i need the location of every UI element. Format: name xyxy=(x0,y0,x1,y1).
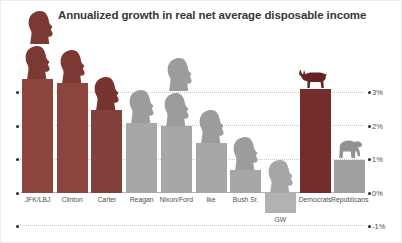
x-label-carter: Carter xyxy=(97,196,116,203)
y-tick-label-3: 3% xyxy=(372,88,383,97)
tick-dot xyxy=(16,225,19,228)
disposable-income-chart: Annualized growth in real net average di… xyxy=(0,0,402,243)
tick-dot xyxy=(16,91,19,94)
y-tick-label-1: 1% xyxy=(372,155,383,164)
tick-dot xyxy=(368,91,371,94)
bar-ike xyxy=(196,143,227,193)
x-label-gw: GW xyxy=(275,216,287,223)
bar-carter xyxy=(91,110,122,194)
bar-bush-sr xyxy=(230,170,261,193)
tick-dot xyxy=(368,192,371,195)
president-head-silhouette-reagan xyxy=(126,89,157,124)
y-tick-label-0: 0% xyxy=(372,189,383,198)
y-tick-label-2: 2% xyxy=(372,122,383,131)
x-label-republicans: Republicans xyxy=(331,196,368,203)
bar-clinton xyxy=(57,83,88,193)
president-head-silhouette-nixon-ford xyxy=(164,57,195,92)
y-tick-label-1: -1% xyxy=(372,222,385,231)
bar-republicans xyxy=(334,160,365,193)
x-label-jfk-lbj: JFK/LBJ xyxy=(25,196,51,203)
tick-dot xyxy=(368,125,371,128)
x-label-nixon-ford: Nixon/Ford xyxy=(160,196,193,203)
bar-reagan xyxy=(126,123,157,193)
tick-dot xyxy=(368,225,371,228)
bar-democrats xyxy=(300,89,331,193)
x-label-reagan: Reagan xyxy=(130,196,154,203)
x-label-clinton: Clinton xyxy=(62,196,83,203)
tick-dot xyxy=(16,158,19,161)
president-head-silhouette-clinton xyxy=(57,49,88,84)
x-label-bush-sr: Bush Sr. xyxy=(233,196,259,203)
x-label-ike: Ike xyxy=(206,196,215,203)
donkey-icon xyxy=(298,68,328,90)
president-head-silhouette-carter xyxy=(91,76,122,111)
tick-dot xyxy=(368,158,371,161)
bar-jfk-lbj xyxy=(22,79,53,193)
president-head-silhouette-jfk-lbj xyxy=(22,45,53,80)
elephant-icon xyxy=(335,139,364,160)
tick-dot xyxy=(16,125,19,128)
president-head-silhouette-ike xyxy=(196,109,227,144)
x-label-democrats: Democrats xyxy=(299,196,332,203)
chart-title: Annualized growth in real net average di… xyxy=(58,8,398,22)
president-head-silhouette-bush-sr xyxy=(230,136,261,171)
bar-nixon-ford xyxy=(161,126,192,193)
tick-dot xyxy=(16,192,19,195)
president-head-silhouette-gw xyxy=(265,159,296,194)
gridline-1 xyxy=(17,225,365,226)
president-head-silhouette-nixon-ford xyxy=(161,92,192,127)
bar-gw xyxy=(265,193,296,213)
president-head-silhouette-jfk-lbj xyxy=(25,10,56,45)
